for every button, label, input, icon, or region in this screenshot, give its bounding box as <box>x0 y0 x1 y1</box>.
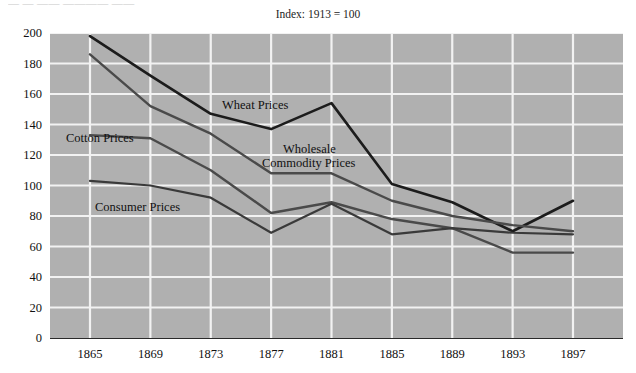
y-tick-label: 140 <box>2 119 42 132</box>
y-tick-label: 180 <box>2 58 42 71</box>
y-tick-label: 20 <box>2 302 42 315</box>
x-tick-label: 1885 <box>362 348 422 361</box>
series-label: Cotton Prices <box>66 131 134 145</box>
x-tick-label: 1869 <box>120 348 180 361</box>
x-tick-label: 1877 <box>241 348 301 361</box>
y-tick-label: 160 <box>2 88 42 101</box>
series-label: Commodity Prices <box>262 156 355 170</box>
y-tick-label: 60 <box>2 241 42 254</box>
x-tick-label: 1893 <box>483 348 543 361</box>
plot-area <box>50 33 623 338</box>
y-tick-label: 200 <box>2 27 42 40</box>
x-tick-label: 1873 <box>181 348 241 361</box>
y-tick-label: 100 <box>2 180 42 193</box>
y-tick-label: 0 <box>2 332 42 345</box>
chart-figure: — — —— ———— —— Index: 1913 = 100 0204060… <box>0 0 636 373</box>
series-label: Wholesale <box>283 142 336 156</box>
clipped-heading-fragment: — — —— ———— —— <box>8 0 188 6</box>
x-tick-label: 1889 <box>422 348 482 361</box>
x-tick-label: 1897 <box>543 348 603 361</box>
series-label: Consumer Prices <box>95 200 180 214</box>
y-tick-label: 80 <box>2 210 42 223</box>
x-axis-baseline <box>50 338 623 339</box>
series-lines <box>50 33 623 338</box>
x-tick-label: 1881 <box>302 348 362 361</box>
y-tick-label: 120 <box>2 149 42 162</box>
x-tick-label: 1865 <box>60 348 120 361</box>
y-tick-label: 40 <box>2 271 42 284</box>
chart-index-note: Index: 1913 = 100 <box>0 8 636 20</box>
series-label: Wheat Prices <box>222 98 288 112</box>
